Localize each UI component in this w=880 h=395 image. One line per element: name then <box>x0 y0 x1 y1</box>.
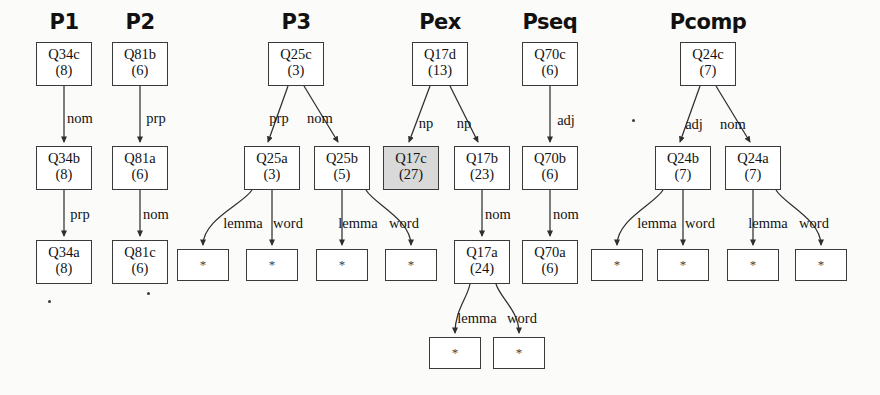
node-id-label: Q34a <box>37 244 91 260</box>
node-count-label: (5) <box>315 166 369 182</box>
node-count-label: (7) <box>726 166 780 182</box>
node-count-label: (23) <box>455 166 509 182</box>
edge-label-e-pex-1: np <box>419 116 434 131</box>
node-q70c[interactable]: Q70c(6) <box>522 42 578 86</box>
column-header-pex: Pex <box>419 12 461 33</box>
node-q70a[interactable]: Q70a(6) <box>522 240 578 284</box>
node-q17a[interactable]: Q17a(24) <box>454 240 510 284</box>
edge-label-e-pc-1: adj <box>685 117 703 132</box>
node-q34b[interactable]: Q34b(8) <box>36 146 92 190</box>
edge-label-e-pex-5: word <box>507 311 537 326</box>
node-count-label: (6) <box>523 166 577 182</box>
leaf-node-leaf-pex-1[interactable]: * <box>429 337 481 369</box>
node-count-label: (7) <box>681 62 735 78</box>
column-header-p1: P1 <box>49 12 78 33</box>
edge-label-e-p3-3: lemma <box>223 216 262 231</box>
node-count-label: (6) <box>523 62 577 78</box>
node-count-label: (8) <box>37 62 91 78</box>
node-count-label: (3) <box>245 166 299 182</box>
node-q17c[interactable]: Q17c(27) <box>383 146 439 190</box>
node-q25c[interactable]: Q25c(3) <box>268 42 324 86</box>
node-count-label: (8) <box>37 260 91 276</box>
node-count-label: (6) <box>113 62 167 78</box>
edge-label-e-p3-5: lemma <box>338 216 377 231</box>
edge-label-e-pseq-1: adj <box>557 113 575 128</box>
node-id-label: Q17c <box>384 150 438 166</box>
node-id-label: Q70b <box>523 150 577 166</box>
leaf-node-leaf-pc-1[interactable]: * <box>591 249 643 281</box>
edge-label-e-pseq-2: nom <box>553 207 579 222</box>
edge-label-e-pc-2: nom <box>720 117 746 132</box>
node-q24b[interactable]: Q24b(7) <box>655 146 711 190</box>
node-count-label: (6) <box>113 260 167 276</box>
edge-label-e-pex-3: nom <box>485 207 511 222</box>
node-id-label: Q81a <box>113 150 167 166</box>
scan-speck <box>632 119 635 122</box>
node-q24c[interactable]: Q24c(7) <box>680 42 736 86</box>
diagram-canvas: P1P2P3PexPseqPcomp Q34c(8)Q34b(8)Q34a(8)… <box>0 0 880 395</box>
node-count-label: (24) <box>455 260 509 276</box>
edge-label-e-pc-3: lemma <box>637 216 676 231</box>
leaf-node-leaf-pex-2[interactable]: * <box>493 337 545 369</box>
scan-speck <box>147 292 150 295</box>
node-q81c[interactable]: Q81c(6) <box>112 240 168 284</box>
node-count-label: (3) <box>269 62 323 78</box>
node-q81a[interactable]: Q81a(6) <box>112 146 168 190</box>
node-count-label: (6) <box>113 166 167 182</box>
node-q34a[interactable]: Q34a(8) <box>36 240 92 284</box>
leaf-node-leaf-pc-3[interactable]: * <box>727 249 779 281</box>
edge-label-e-p2-1: prp <box>146 111 165 126</box>
edge-label-e-p2-2: nom <box>143 207 169 222</box>
node-q81b[interactable]: Q81b(6) <box>112 42 168 86</box>
edge-label-e-pex-4: lemma <box>457 311 496 326</box>
edge-label-e-pc-6: word <box>799 216 829 231</box>
node-id-label: Q34c <box>37 46 91 62</box>
edge-label-e-pex-2: np <box>457 116 472 131</box>
column-header-pcomp: Pcomp <box>670 12 747 33</box>
column-header-p3: P3 <box>281 12 310 33</box>
node-id-label: Q25b <box>315 150 369 166</box>
leaf-node-leaf-pc-4[interactable]: * <box>795 249 847 281</box>
node-id-label: Q17b <box>455 150 509 166</box>
node-count-label: (27) <box>384 166 438 182</box>
column-header-pseq: Pseq <box>523 12 578 33</box>
node-id-label: Q81c <box>113 244 167 260</box>
scan-speck <box>48 300 51 303</box>
node-id-label: Q25a <box>245 150 299 166</box>
node-q17b[interactable]: Q17b(23) <box>454 146 510 190</box>
node-q25a[interactable]: Q25a(3) <box>244 146 300 190</box>
node-id-label: Q24a <box>726 150 780 166</box>
node-q70b[interactable]: Q70b(6) <box>522 146 578 190</box>
edge-label-e-pc-5: lemma <box>748 216 787 231</box>
node-q17d[interactable]: Q17d(13) <box>412 42 468 86</box>
edge-q24c-to-q24a <box>716 86 750 142</box>
node-id-label: Q70c <box>523 46 577 62</box>
edge-label-e-p3-4: word <box>273 216 303 231</box>
node-count-label: (8) <box>37 166 91 182</box>
node-q24a[interactable]: Q24a(7) <box>725 146 781 190</box>
edge-label-e-p1-2: prp <box>70 207 89 222</box>
edge-label-e-p3-1: prp <box>269 111 288 126</box>
node-count-label: (6) <box>523 260 577 276</box>
node-q25b[interactable]: Q25b(5) <box>314 146 370 190</box>
node-id-label: Q70a <box>523 244 577 260</box>
node-count-label: (13) <box>413 62 467 78</box>
node-id-label: Q17d <box>413 46 467 62</box>
edge-q17d-to-q17b <box>450 86 478 142</box>
node-id-label: Q34b <box>37 150 91 166</box>
leaf-node-leaf-pc-2[interactable]: * <box>657 249 709 281</box>
leaf-node-leaf-p3-2[interactable]: * <box>246 249 298 281</box>
node-id-label: Q24c <box>681 46 735 62</box>
node-id-label: Q25c <box>269 46 323 62</box>
node-q34c[interactable]: Q34c(8) <box>36 42 92 86</box>
leaf-node-leaf-p3-1[interactable]: * <box>177 249 229 281</box>
leaf-node-leaf-p3-4[interactable]: * <box>385 249 437 281</box>
node-id-label: Q81b <box>113 46 167 62</box>
edge-label-e-pc-4: word <box>685 216 715 231</box>
node-id-label: Q24b <box>656 150 710 166</box>
node-id-label: Q17a <box>455 244 509 260</box>
leaf-node-leaf-p3-3[interactable]: * <box>316 249 368 281</box>
node-count-label: (7) <box>656 166 710 182</box>
edge-label-e-p3-6: word <box>389 216 419 231</box>
edge-q24c-to-q24b <box>680 86 700 142</box>
